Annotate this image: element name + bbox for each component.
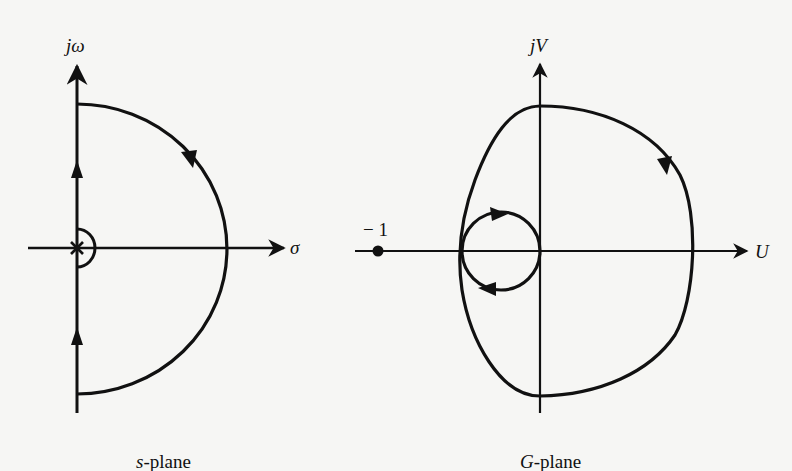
g-plane-panel: jV U − 1 G-plane: [355, 35, 770, 471]
arrow-clockwise-icon: [181, 150, 197, 168]
g-plane-caption: G-plane: [520, 451, 581, 471]
s-plane-caption: s-plane: [136, 451, 191, 471]
jv-label: jV: [527, 35, 549, 56]
s-plane-panel: jω σ s-plane: [28, 35, 300, 471]
nyquist-diagram: jω σ s-plane jV U − 1 G-plane: [0, 0, 792, 471]
critical-point: [373, 246, 384, 257]
sigma-label: σ: [290, 237, 300, 258]
jw-label: jω: [63, 35, 85, 56]
arrow-right-icon: [490, 207, 508, 221]
arrow-up-icon: [71, 160, 83, 178]
minus-one-label: − 1: [363, 219, 388, 240]
u-label: U: [755, 241, 770, 262]
arrow-clockwise-icon: [657, 156, 672, 175]
arrow-up-icon: [71, 327, 83, 345]
